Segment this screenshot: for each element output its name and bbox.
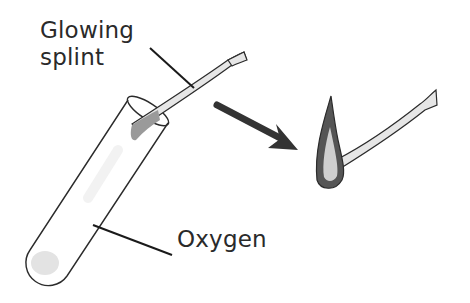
- tube-residue: [31, 251, 59, 275]
- arrow-icon: [217, 105, 298, 150]
- label-glowing: Glowing: [40, 17, 134, 44]
- oxygen-leader-line: [93, 225, 172, 255]
- label-splint: splint: [40, 44, 104, 71]
- glowing-splint: [131, 48, 247, 140]
- label-oxygen: Oxygen: [177, 226, 267, 253]
- relit-splint: [316, 90, 437, 188]
- splint-leader-line: [150, 48, 194, 88]
